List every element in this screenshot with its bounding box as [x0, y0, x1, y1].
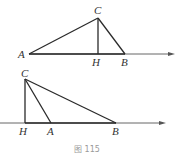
- top-ray-arrowhead: [168, 52, 175, 56]
- top-side-CB: [98, 18, 125, 54]
- bottom-ray-arrowhead: [159, 121, 166, 125]
- top-figure: A C H B: [17, 4, 175, 68]
- top-label-C: C: [94, 4, 102, 16]
- bottom-label-C: C: [21, 67, 29, 79]
- top-side-AC: [29, 18, 98, 54]
- top-label-H: H: [91, 56, 101, 68]
- bottom-label-H: H: [18, 125, 28, 137]
- bottom-label-A: A: [46, 125, 54, 137]
- top-label-B: B: [121, 56, 128, 68]
- bottom-figure: C H A B: [0, 67, 166, 137]
- geometry-figure: A C H B C H A B 图 115: [0, 0, 175, 154]
- figure-caption: 图 115: [74, 145, 100, 154]
- bottom-label-B: B: [112, 125, 119, 137]
- top-label-A: A: [17, 48, 25, 60]
